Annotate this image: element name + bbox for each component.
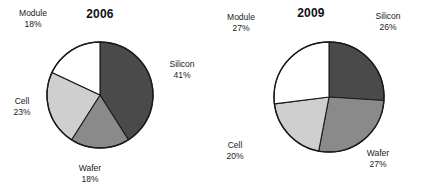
pie-slice-wafer-2009 (319, 97, 384, 152)
slice-label-cell-2009-value: 20% (214, 151, 256, 162)
slice-label-module-2006: Module 18% (6, 8, 60, 29)
slice-label-wafer-2006: Wafer 18% (62, 163, 118, 184)
slice-label-module-2006-name: Module (6, 8, 60, 19)
slice-label-cell-2006-name: Cell (2, 96, 42, 107)
pie-chart-figure: 2006 Module 18% Silicon 41% Cell 23% Waf… (0, 0, 421, 193)
pie-chart-2006: 2006 Module 18% Silicon 41% Cell 23% Waf… (0, 0, 210, 193)
slice-label-wafer-2009-value: 27% (350, 159, 406, 170)
slice-label-wafer-2009: Wafer 27% (350, 148, 406, 169)
slice-label-wafer-2009-name: Wafer (350, 148, 406, 159)
slice-label-silicon-2009: Silicon 26% (362, 11, 414, 32)
slice-label-module-2009-name: Module (214, 12, 268, 23)
slice-label-module-2006-value: 18% (6, 19, 60, 30)
chart-title-2009: 2009 (285, 6, 337, 20)
slice-label-module-2009-value: 27% (214, 23, 268, 34)
pie-slice-silicon-2009 (329, 42, 384, 100)
slice-label-silicon-2009-name: Silicon (362, 11, 414, 22)
slice-label-wafer-2006-name: Wafer (62, 163, 118, 174)
pie-chart-2009: 2009 Module 27% Silicon 26% Cell 20% Waf… (210, 0, 421, 193)
slice-label-silicon-2006: Silicon 41% (156, 59, 208, 80)
slice-label-module-2009: Module 27% (214, 12, 268, 33)
chart-title-2006: 2006 (74, 7, 126, 21)
pie-slice-module-2009 (274, 42, 329, 104)
slice-label-cell-2006: Cell 23% (2, 96, 42, 117)
slice-label-silicon-2006-value: 41% (156, 70, 208, 81)
slice-label-silicon-2009-value: 26% (362, 22, 414, 33)
slice-label-wafer-2006-value: 18% (62, 174, 118, 185)
slice-label-cell-2009: Cell 20% (214, 140, 256, 161)
slice-label-cell-2009-name: Cell (214, 140, 256, 151)
slice-label-silicon-2006-name: Silicon (156, 59, 208, 70)
slice-label-cell-2006-value: 23% (2, 107, 42, 118)
